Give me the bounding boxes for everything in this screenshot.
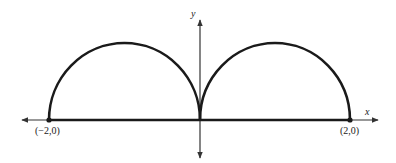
point-label-2-0: (2,0) bbox=[340, 125, 359, 137]
point-2-0 bbox=[347, 117, 352, 122]
y-axis-label: y bbox=[190, 8, 196, 19]
point-label-neg2-0: (−2,0) bbox=[35, 125, 60, 137]
left-semicircle bbox=[49, 43, 200, 120]
right-semicircle bbox=[200, 43, 350, 120]
graph-canvas: y x (−2,0) (2,0) bbox=[0, 0, 396, 163]
point-neg2-0 bbox=[46, 117, 51, 122]
x-axis-label: x bbox=[364, 106, 370, 117]
